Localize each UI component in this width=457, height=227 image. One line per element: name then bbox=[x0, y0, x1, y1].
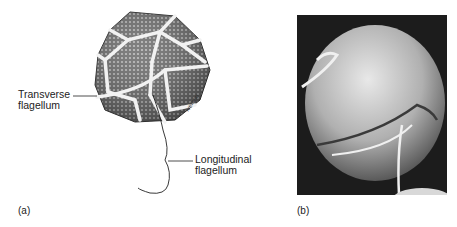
panel-a-tag: (a) bbox=[18, 205, 30, 216]
label-line: flagellum bbox=[195, 165, 252, 176]
dinoflagellate-drawing: Iverson bbox=[0, 0, 290, 227]
longitudinal-flagellum-label: Longitudinal flagellum bbox=[195, 154, 252, 176]
transverse-flagellum-label: Transverse flagellum bbox=[18, 89, 70, 111]
panel-a-illustration: Iverson Transverse flagellum Longitudina… bbox=[0, 0, 290, 227]
sem-micrograph bbox=[297, 15, 447, 195]
panel-b-tag: (b) bbox=[297, 205, 309, 216]
label-line: flagellum bbox=[18, 100, 70, 111]
panel-b-micrograph: (b) bbox=[290, 0, 457, 227]
